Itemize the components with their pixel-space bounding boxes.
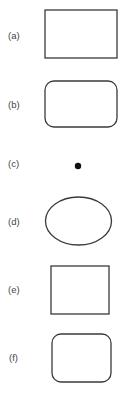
label-b: (b) [8,99,20,110]
item-a: (a) [8,10,117,58]
label-e: (e) [8,284,20,295]
shapes-diagram: (a) (b) (c) (d) (e) (f) [0,0,123,396]
item-e: (e) [8,266,109,314]
item-f: (f) [9,334,111,382]
item-c: (c) [8,158,81,169]
point-shape [75,163,81,169]
rounded-rectangle-shape [45,81,117,127]
label-c: (c) [8,158,19,169]
rectangle-shape [45,10,117,58]
ellipse-shape [46,197,112,245]
label-f: (f) [9,352,18,363]
label-a: (a) [8,30,20,41]
item-b: (b) [8,81,117,127]
square-shape [51,266,109,314]
rounded-square-shape [52,334,111,382]
label-d: (d) [8,216,20,227]
item-d: (d) [8,197,112,245]
